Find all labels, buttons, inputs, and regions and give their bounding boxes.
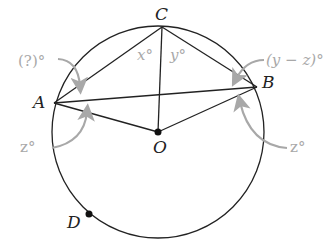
label-A: A	[31, 92, 45, 112]
segment-AO	[54, 103, 158, 132]
arrow-z-left	[52, 112, 87, 148]
geometry-diagram: C A B O D x° y° (?)° (y − z)° z° z°	[0, 0, 332, 242]
point-O-dot	[155, 129, 162, 136]
angle-z-right-label: z°	[290, 138, 305, 156]
point-D-dot	[86, 211, 93, 218]
label-B: B	[261, 72, 275, 92]
label-C: C	[155, 4, 168, 24]
angle-y-minus-z-label: (y − z)°	[266, 51, 324, 69]
label-D: D	[66, 212, 81, 232]
angle-unknown-label: (?)°	[18, 52, 45, 70]
segment-CO	[158, 27, 162, 132]
label-O: O	[153, 137, 167, 157]
angle-z-left-label: z°	[20, 138, 35, 156]
angle-x-label: x°	[137, 46, 153, 64]
angle-y-label: y°	[169, 46, 186, 64]
